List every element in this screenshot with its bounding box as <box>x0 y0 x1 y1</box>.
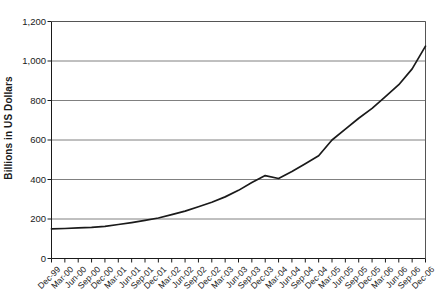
x-axis-tick-marks <box>52 259 426 263</box>
data-series-line <box>52 46 426 229</box>
chart-container: Billions in US Dollars 1,2001,0008006004… <box>0 0 441 306</box>
plot-area <box>0 0 441 306</box>
